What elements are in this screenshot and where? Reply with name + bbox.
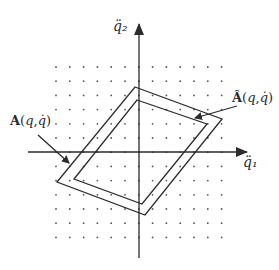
grid-dot bbox=[97, 166, 99, 168]
grid-dot bbox=[207, 180, 209, 182]
grid-dot bbox=[207, 166, 209, 168]
grid-dot bbox=[55, 80, 57, 82]
grid-dot bbox=[97, 237, 99, 239]
grid-dot bbox=[110, 137, 112, 139]
grid-dot bbox=[221, 194, 223, 196]
grid-dot bbox=[110, 66, 112, 68]
grid-dot bbox=[97, 109, 99, 111]
grid-dot bbox=[166, 123, 168, 125]
grid-dot bbox=[110, 222, 112, 224]
grid-dot bbox=[193, 80, 195, 82]
grid-dot bbox=[124, 80, 126, 82]
grid-dot bbox=[166, 180, 168, 182]
grid-dot bbox=[179, 123, 181, 125]
grid-dot bbox=[69, 208, 71, 210]
grid-dot bbox=[124, 166, 126, 168]
grid-dot bbox=[179, 237, 181, 239]
grid-dot bbox=[166, 237, 168, 239]
grid-dot bbox=[83, 66, 85, 68]
grid-dot bbox=[221, 66, 223, 68]
grid-dot bbox=[193, 180, 195, 182]
grid-dot bbox=[69, 123, 71, 125]
grid-dot bbox=[207, 66, 209, 68]
grid-dot bbox=[193, 208, 195, 210]
grid-dot bbox=[152, 180, 154, 182]
inner-set-symbol: Â bbox=[232, 90, 242, 105]
grid-dot bbox=[83, 180, 85, 182]
grid-dot bbox=[207, 208, 209, 210]
grid-dot bbox=[166, 80, 168, 82]
grid-dot bbox=[152, 237, 154, 239]
grid-dot bbox=[152, 123, 154, 125]
grid-dot bbox=[124, 222, 126, 224]
grid-dot bbox=[55, 166, 57, 168]
grid-dot bbox=[124, 123, 126, 125]
grid-dot bbox=[110, 237, 112, 239]
grid-dot bbox=[179, 137, 181, 139]
grid-dot bbox=[193, 95, 195, 97]
grid-dot bbox=[69, 66, 71, 68]
grid-dot bbox=[69, 109, 71, 111]
grid-dot bbox=[221, 166, 223, 168]
grid-dot bbox=[179, 208, 181, 210]
outer-set-args: (q,q̇) bbox=[20, 113, 51, 128]
grid-dot bbox=[179, 194, 181, 196]
outer-set-symbol: A bbox=[10, 113, 20, 128]
grid-dot bbox=[166, 222, 168, 224]
grid-dot bbox=[83, 109, 85, 111]
grid-dot bbox=[110, 208, 112, 210]
grid-dot bbox=[69, 237, 71, 239]
grid-dot bbox=[110, 123, 112, 125]
grid-dot bbox=[166, 208, 168, 210]
grid-dot bbox=[221, 80, 223, 82]
grid-dot bbox=[221, 222, 223, 224]
grid-dot bbox=[110, 95, 112, 97]
grid-dot bbox=[97, 123, 99, 125]
grid-dot bbox=[221, 137, 223, 139]
grid-dot bbox=[179, 166, 181, 168]
grid-dot bbox=[97, 180, 99, 182]
grid-dot bbox=[69, 95, 71, 97]
grid-dot bbox=[69, 222, 71, 224]
grid-dot bbox=[97, 80, 99, 82]
grid-dot bbox=[124, 109, 126, 111]
grid-dot bbox=[193, 222, 195, 224]
x-axis-label: q̈₁ bbox=[243, 154, 258, 170]
diagram-canvas bbox=[0, 0, 279, 270]
grid-dot bbox=[179, 109, 181, 111]
grid-dot bbox=[152, 66, 154, 68]
grid-dot bbox=[97, 66, 99, 68]
grid-dot bbox=[193, 166, 195, 168]
grid-dot bbox=[166, 66, 168, 68]
grid-dot bbox=[110, 180, 112, 182]
grid-dot bbox=[179, 80, 181, 82]
grid-dot bbox=[124, 95, 126, 97]
grid-dot bbox=[152, 208, 154, 210]
grid-dot bbox=[166, 137, 168, 139]
grid-dot bbox=[55, 109, 57, 111]
inner-set-label: Â(q,q̇) bbox=[232, 90, 273, 105]
grid-dot bbox=[83, 137, 85, 139]
grid-dot bbox=[110, 194, 112, 196]
grid-dot bbox=[124, 237, 126, 239]
grid-dot bbox=[69, 180, 71, 182]
grid-dot bbox=[83, 222, 85, 224]
grid-dot bbox=[152, 222, 154, 224]
grid-dot bbox=[55, 137, 57, 139]
grid-dot bbox=[166, 95, 168, 97]
grid-dot bbox=[83, 80, 85, 82]
grid-dot bbox=[97, 194, 99, 196]
grid-dot bbox=[83, 194, 85, 196]
grid-dot bbox=[55, 222, 57, 224]
grid-dot bbox=[152, 80, 154, 82]
grid-dot bbox=[55, 123, 57, 125]
grid-dot bbox=[207, 237, 209, 239]
grid-dot bbox=[207, 109, 209, 111]
outer-set-pointer-arrow bbox=[38, 135, 69, 163]
grid-dot bbox=[55, 95, 57, 97]
grid-dot bbox=[55, 66, 57, 68]
grid-dot bbox=[97, 222, 99, 224]
grid-dot bbox=[166, 166, 168, 168]
grid-dot bbox=[69, 80, 71, 82]
grid-dot bbox=[193, 66, 195, 68]
